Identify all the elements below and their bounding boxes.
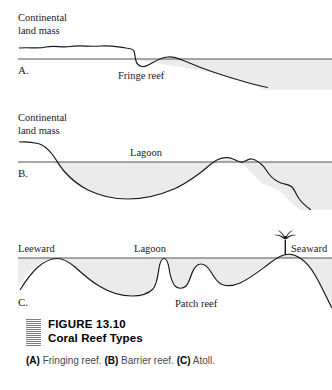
panel-c-patch-reef-label: Patch reef <box>175 298 217 311</box>
figure-caption: FIGURE 13.10 Coral Reef Types (A) Fringi… <box>26 318 326 367</box>
caption-tag-b: (B) <box>104 355 118 366</box>
caption-text-b: Barrier reef. <box>118 355 176 366</box>
panel-c-atoll-diagram <box>0 218 332 318</box>
panel-b-letter: B. <box>18 167 28 179</box>
caption-header-row: FIGURE 13.10 Coral Reef Types <box>26 318 326 346</box>
caption-text-a: Fringing reef. <box>40 355 104 366</box>
panel-b-water-fill <box>52 159 332 210</box>
figure-number: FIGURE 13.10 <box>48 318 143 332</box>
caption-tag-c: (C) <box>177 355 191 366</box>
caption-description: (A) Fringing reef. (B) Barrier reef. (C)… <box>26 354 326 367</box>
panel-a-fringe-reef-label: Fringe reef <box>118 70 164 83</box>
panel-c-seaward-label: Seaward <box>291 243 327 256</box>
panel-c-letter: C. <box>18 296 28 308</box>
figure-title: Coral Reef Types <box>48 332 143 346</box>
caption-title-wrap: FIGURE 13.10 Coral Reef Types <box>48 318 143 345</box>
caption-text-c: Atoll. <box>191 355 215 366</box>
panel-a-letter: A. <box>18 64 29 76</box>
caption-tag-a: (A) <box>26 355 40 366</box>
panel-a-land-label: Continental land mass <box>18 12 67 37</box>
panel-b-land-label: Continental land mass <box>18 112 67 137</box>
panel-c-lagoon-label: Lagoon <box>134 243 166 256</box>
panel-b-lagoon-label: Lagoon <box>130 147 162 160</box>
coral-reef-figure: Continental land mass Fringe reef A. Con… <box>0 0 332 390</box>
panel-c-leeward-label: Leeward <box>18 243 55 256</box>
hatched-square-icon <box>26 319 41 346</box>
